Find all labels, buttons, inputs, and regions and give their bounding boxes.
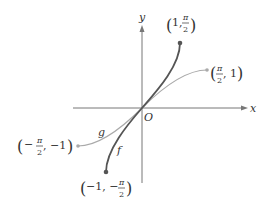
svg-text:, −1: , −1 <box>43 139 66 152</box>
svg-text:): ) <box>237 64 243 83</box>
svg-text:π: π <box>36 136 43 145</box>
curve-g-label: g <box>98 126 105 139</box>
x-axis-arrow-icon <box>241 106 248 111</box>
svg-text:π: π <box>118 178 125 187</box>
point-f-top <box>178 41 183 46</box>
label-g-right: ( π 2 , 1 ) <box>210 64 243 85</box>
svg-text:): ) <box>126 179 132 198</box>
origin-label: O <box>144 111 153 124</box>
svg-text:−: − <box>24 138 33 151</box>
svg-text:π: π <box>182 13 189 22</box>
svg-text:−1, −: −1, − <box>86 180 118 193</box>
svg-text:2: 2 <box>217 76 222 85</box>
point-g-left <box>76 144 80 148</box>
svg-text:1,: 1, <box>172 16 183 29</box>
svg-text:(: ( <box>210 64 216 83</box>
point-g-right <box>205 68 209 72</box>
label-g-left: ( − π 2 , −1 ) <box>17 136 73 157</box>
x-axis-label: x <box>250 102 257 115</box>
svg-text:2: 2 <box>37 148 42 157</box>
svg-text:(: ( <box>17 137 23 156</box>
curve-f-label: f <box>116 144 123 157</box>
svg-text:2: 2 <box>183 25 188 34</box>
graph-svg: x y O g f ( 1, π 2 ) ( π 2 , 1 ) ( − π 2… <box>0 0 266 213</box>
point-f-bottom <box>104 170 109 175</box>
y-axis-arrow-icon <box>140 25 145 32</box>
label-f-bottom: ( −1, − π 2 ) <box>80 178 132 199</box>
svg-text:): ) <box>190 16 196 35</box>
svg-text:, 1: , 1 <box>223 67 237 80</box>
diagram-canvas: x y O g f ( 1, π 2 ) ( π 2 , 1 ) ( − π 2… <box>0 0 266 213</box>
y-axis-label: y <box>138 11 146 24</box>
svg-text:π: π <box>216 64 223 73</box>
svg-text:): ) <box>67 137 73 156</box>
svg-text:2: 2 <box>119 190 124 199</box>
label-f-top: ( 1, π 2 ) <box>166 13 196 35</box>
